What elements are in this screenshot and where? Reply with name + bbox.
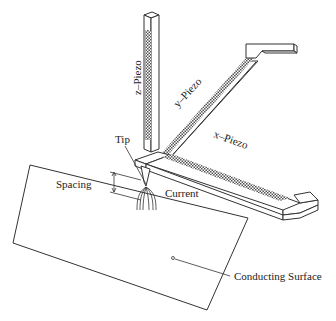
stm-diagram: z–Piezo y–Piezo x–Piezo Tip Spacing Curr…	[0, 0, 336, 321]
surface-point-marker	[172, 257, 175, 260]
spacing-label: Spacing	[56, 178, 92, 190]
conducting-surface-label: Conducting Surface	[234, 270, 322, 282]
current-label: Current	[165, 187, 199, 199]
tip-label: Tip	[115, 133, 130, 145]
z-piezo-label: z–Piezo	[131, 60, 143, 95]
z-piezo-bar	[144, 12, 159, 152]
x-piezo-label: x–Piezo	[212, 128, 250, 152]
y-piezo-label: y–Piezo	[171, 75, 204, 109]
